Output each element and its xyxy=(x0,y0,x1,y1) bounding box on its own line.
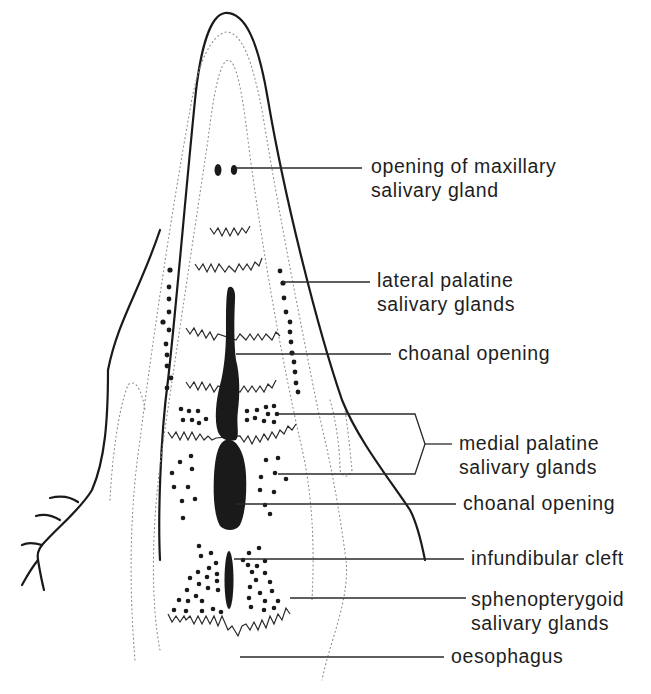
branch-3 xyxy=(22,543,42,545)
choanal-opening-upper xyxy=(216,287,239,441)
label-maxillary-line1: opening of maxillary xyxy=(371,154,556,178)
label-choanal-lower: choanal opening xyxy=(463,491,615,515)
choanal-opening-lower xyxy=(214,440,247,530)
label-medial-palatine-line2: salivary glands xyxy=(459,455,599,479)
zigzag-row-1 xyxy=(210,226,250,236)
lateral-palatine-dots-right xyxy=(278,269,301,395)
lateral-palatine-dots-left xyxy=(160,267,173,390)
label-infundibular: infundibular cleft xyxy=(471,546,624,570)
maxillary-opening-right xyxy=(231,165,237,175)
label-maxillary: opening of maxillary salivary gland xyxy=(371,154,556,202)
label-lateral-palatine-line2: salivary glands xyxy=(377,292,515,316)
label-medial-palatine: medial palatine salivary glands xyxy=(459,431,599,479)
label-oesophagus: oesophagus xyxy=(451,644,563,668)
label-choanal-upper: choanal opening xyxy=(398,341,550,365)
jaw-outline-left xyxy=(42,370,108,545)
label-sphenopterygoid: sphenopterygoid salivary glands xyxy=(471,587,624,635)
label-lateral-palatine-line1: lateral palatine xyxy=(377,268,515,292)
maxillary-opening-left xyxy=(215,164,222,176)
label-sphenopterygoid-line2: salivary glands xyxy=(471,611,624,635)
infundibular-cleft-shape xyxy=(225,551,234,609)
label-lateral-palatine: lateral palatine salivary glands xyxy=(377,268,515,316)
dotted-loop-right xyxy=(330,400,352,476)
branch-5 xyxy=(38,560,44,590)
label-maxillary-line2: salivary gland xyxy=(371,178,556,202)
branch-1 xyxy=(50,497,78,502)
branch-4 xyxy=(22,560,38,585)
branch-stem xyxy=(38,545,42,560)
label-choanal-upper-line1: choanal opening xyxy=(398,341,550,365)
body-outline-left-upper xyxy=(108,230,160,370)
branch-2 xyxy=(36,515,60,520)
dotted-outline-outer xyxy=(131,32,346,680)
zigzag-row-2 xyxy=(195,258,262,272)
palate-diagram: opening of maxillary salivary gland late… xyxy=(0,0,651,694)
label-choanal-lower-line1: choanal opening xyxy=(463,491,615,515)
label-sphenopterygoid-line1: sphenopterygoid xyxy=(471,587,624,611)
label-infundibular-line1: infundibular cleft xyxy=(471,546,624,570)
label-oesophagus-line1: oesophagus xyxy=(451,644,563,668)
label-medial-palatine-line1: medial palatine xyxy=(459,431,599,455)
